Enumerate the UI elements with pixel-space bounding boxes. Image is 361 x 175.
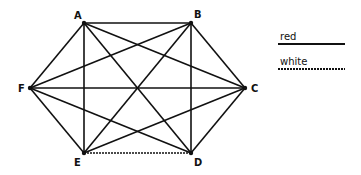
vertex-label-C: C [251, 82, 258, 95]
edge-AF-red [30, 23, 84, 88]
vertex-label-D: D [194, 156, 202, 169]
legend-red-label: red [280, 31, 296, 42]
edge-CD-red [191, 88, 245, 153]
vertex-label-F: F [18, 82, 25, 95]
edge-CE-red [84, 88, 245, 153]
edges [30, 23, 245, 153]
vertex-F [28, 86, 32, 90]
vertex-A [82, 21, 86, 25]
vertex-D [189, 151, 193, 155]
vertex-label-B: B [194, 8, 202, 21]
edge-EF-red [30, 88, 84, 153]
legend: red white [278, 31, 345, 69]
graph-diagram: ABCDEF red white [0, 0, 361, 175]
edge-BF-red [30, 23, 191, 88]
edge-DF-red [30, 88, 191, 153]
vertex-E [82, 151, 86, 155]
vertex-B [189, 21, 193, 25]
vertex-C [243, 86, 247, 90]
vertex-label-A: A [74, 9, 82, 22]
edge-BC-red [191, 23, 245, 88]
legend-white-label: white [280, 56, 307, 67]
vertex-label-E: E [74, 156, 81, 169]
